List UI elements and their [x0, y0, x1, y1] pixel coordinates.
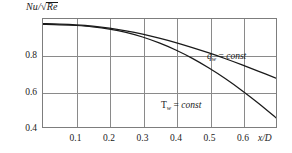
- y-tick-label-0.8: 0.8: [13, 50, 37, 60]
- y-tick-label-0.4: 0.4: [13, 123, 37, 133]
- annotation-qw-subscript: w: [212, 55, 216, 62]
- y-axis-title-radical-group: √Re: [41, 1, 58, 12]
- annotation-tw-symbol: T: [161, 100, 167, 110]
- x-tick-label-0.1: 0.1: [64, 133, 88, 143]
- annotation-tw: Tw = const: [161, 100, 201, 110]
- annotation-qw-const: const: [226, 51, 246, 61]
- curves-svg: [43, 19, 276, 127]
- annotation-tw-const: const: [181, 100, 201, 110]
- y-axis-title: Nu/√Re: [26, 1, 58, 12]
- annotation-tw-equals: =: [174, 100, 179, 110]
- annotation-qw-equals: =: [218, 51, 223, 61]
- y-tick-label-0.6: 0.6: [13, 87, 37, 97]
- x-axis-title: x/D: [258, 133, 272, 143]
- x-tick-label-0.5: 0.5: [198, 133, 222, 143]
- y-axis-title-radicand: Re: [47, 1, 58, 12]
- x-tick-label-0.4: 0.4: [164, 133, 188, 143]
- chart-figure: Nu/√Re qw = const Tw = const 0.8 0: [0, 0, 292, 153]
- x-tick-label-0.3: 0.3: [131, 133, 155, 143]
- radical-overbar: [46, 2, 58, 3]
- annotation-tw-subscript: w: [167, 104, 171, 111]
- x-tick-label-0.2: 0.2: [97, 133, 121, 143]
- plot-area: qw = const Tw = const: [42, 18, 277, 128]
- y-axis-title-numerator: Nu: [26, 1, 38, 12]
- annotation-qw: qw = const: [207, 51, 246, 61]
- x-tick-label-0.6: 0.6: [231, 133, 255, 143]
